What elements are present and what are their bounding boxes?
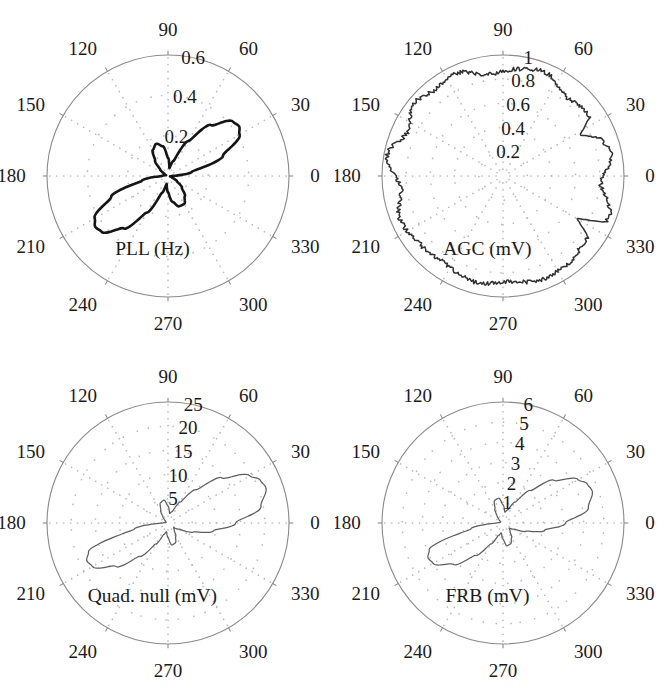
angle-tick-label-60: 60 bbox=[239, 38, 258, 59]
angle-tick-label-180: 180 bbox=[335, 165, 361, 186]
radial-tick-label-5: 5 bbox=[519, 413, 529, 434]
angle-tick-label-300: 300 bbox=[239, 294, 268, 315]
radial-tick-label-10: 10 bbox=[169, 465, 188, 486]
radial-tick-label-0.6: 0.6 bbox=[506, 94, 530, 115]
panel-title: AGC (mV) bbox=[443, 238, 531, 260]
angle-tick-label-270: 270 bbox=[489, 660, 518, 681]
radial-label-group: 123456 bbox=[502, 394, 533, 514]
angle-tick-label-180: 180 bbox=[335, 512, 361, 533]
angle-tick-label-330: 330 bbox=[291, 236, 320, 257]
angle-tick-label-0: 0 bbox=[645, 165, 655, 186]
angle-tick-label-270: 270 bbox=[489, 313, 518, 334]
angle-tick-label-60: 60 bbox=[574, 38, 593, 59]
polar-figure: 03060901201501802102402703003300.20.40.6… bbox=[0, 0, 670, 694]
angle-tick-label-300: 300 bbox=[239, 641, 268, 662]
radial-tick-label-0.2: 0.2 bbox=[165, 126, 189, 147]
polar-plot-agc: 03060901201501802102402703003300.20.40.6… bbox=[335, 0, 670, 347]
polar-axis bbox=[378, 51, 628, 301]
angle-tick-label-180: 180 bbox=[0, 165, 26, 186]
radial-tick-label-25: 25 bbox=[184, 394, 203, 415]
angle-tick-label-120: 120 bbox=[68, 385, 97, 406]
radial-tick-label-0.8: 0.8 bbox=[511, 70, 535, 91]
radial-tick-label-3: 3 bbox=[511, 453, 520, 474]
polar-axis bbox=[43, 51, 293, 301]
angle-tick-label-30: 30 bbox=[626, 441, 645, 462]
panel-agc: 03060901201501802102402703003300.20.40.6… bbox=[335, 0, 670, 347]
angle-tick-label-60: 60 bbox=[239, 385, 258, 406]
panel-title: FRB (mV) bbox=[445, 585, 529, 607]
angle-tick-label-90: 90 bbox=[159, 366, 178, 387]
angle-tick-label-270: 270 bbox=[154, 313, 183, 334]
angle-tick-label-150: 150 bbox=[16, 94, 45, 115]
angle-tick-label-120: 120 bbox=[403, 38, 432, 59]
angle-tick-label-120: 120 bbox=[68, 38, 97, 59]
angle-tick-label-240: 240 bbox=[68, 294, 97, 315]
radial-tick-label-0.4: 0.4 bbox=[173, 86, 197, 107]
polar-axis bbox=[378, 398, 628, 648]
angle-tick-label-330: 330 bbox=[291, 583, 320, 604]
angle-tick-label-30: 30 bbox=[291, 94, 310, 115]
angle-tick-label-0: 0 bbox=[645, 512, 655, 533]
panel-frb: 0306090120150180210240270300330123456FRB… bbox=[335, 347, 670, 694]
radial-tick-label-4: 4 bbox=[515, 433, 525, 454]
polar-axis bbox=[43, 398, 293, 648]
radial-tick-label-20: 20 bbox=[179, 417, 198, 438]
radial-tick-label-1: 1 bbox=[523, 47, 533, 68]
radial-tick-label-6: 6 bbox=[523, 394, 533, 415]
angle-tick-label-300: 300 bbox=[574, 641, 603, 662]
angle-tick-label-240: 240 bbox=[68, 641, 97, 662]
radial-tick-label-0.4: 0.4 bbox=[501, 118, 525, 139]
angle-tick-label-240: 240 bbox=[403, 641, 432, 662]
angle-tick-label-30: 30 bbox=[626, 94, 645, 115]
radial-label-group: 0.20.40.60.81 bbox=[496, 47, 535, 163]
angle-tick-label-120: 120 bbox=[403, 385, 432, 406]
angle-tick-label-60: 60 bbox=[574, 385, 593, 406]
radial-tick-label-0.2: 0.2 bbox=[496, 141, 520, 162]
angle-tick-label-150: 150 bbox=[351, 441, 380, 462]
panel-title: Quad. null (mV) bbox=[88, 585, 217, 607]
angle-tick-label-0: 0 bbox=[310, 165, 320, 186]
polar-plot-frb: 0306090120150180210240270300330123456FRB… bbox=[335, 347, 670, 694]
angle-tick-label-90: 90 bbox=[494, 19, 513, 40]
angle-tick-label-210: 210 bbox=[16, 583, 45, 604]
angle-tick-label-300: 300 bbox=[574, 294, 603, 315]
angle-tick-label-240: 240 bbox=[403, 294, 432, 315]
polar-plot-quad-null: 0306090120150180210240270300330510152025… bbox=[0, 347, 335, 694]
panel-quad-null: 0306090120150180210240270300330510152025… bbox=[0, 347, 335, 694]
angle-tick-label-330: 330 bbox=[626, 583, 655, 604]
angle-tick-label-150: 150 bbox=[351, 94, 380, 115]
panel-pll: 03060901201501802102402703003300.20.40.6… bbox=[0, 0, 335, 347]
angle-tick-label-180: 180 bbox=[0, 512, 26, 533]
angle-tick-label-0: 0 bbox=[310, 512, 320, 533]
radial-tick-label-0.6: 0.6 bbox=[181, 47, 205, 68]
angle-tick-label-270: 270 bbox=[154, 660, 183, 681]
angle-tick-label-210: 210 bbox=[351, 583, 380, 604]
radial-label-group: 510152025 bbox=[168, 394, 202, 510]
radial-tick-label-2: 2 bbox=[507, 473, 517, 494]
panel-title: PLL (Hz) bbox=[115, 238, 190, 260]
angle-tick-label-90: 90 bbox=[159, 19, 178, 40]
radial-tick-label-15: 15 bbox=[174, 441, 193, 462]
angle-tick-label-210: 210 bbox=[16, 236, 45, 257]
angle-tick-label-30: 30 bbox=[291, 441, 310, 462]
radial-tick-label-1: 1 bbox=[502, 492, 512, 513]
angle-tick-label-90: 90 bbox=[494, 366, 513, 387]
radial-tick-label-5: 5 bbox=[168, 488, 178, 509]
angle-tick-label-210: 210 bbox=[351, 236, 380, 257]
polar-plot-pll: 03060901201501802102402703003300.20.40.6… bbox=[0, 0, 335, 347]
angle-tick-label-330: 330 bbox=[626, 236, 655, 257]
angle-tick-label-150: 150 bbox=[16, 441, 45, 462]
